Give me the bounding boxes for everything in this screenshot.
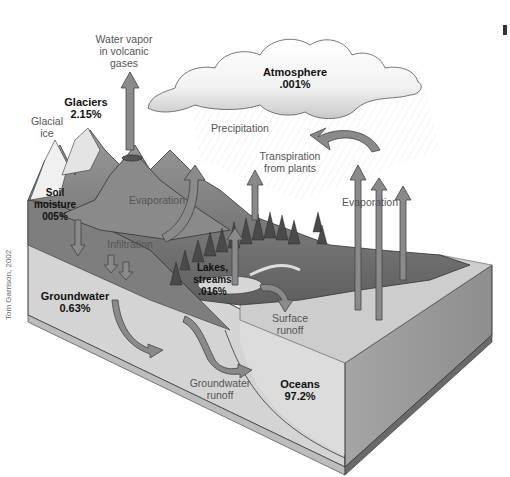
- groundwater-runoff-label: Groundwater runoff: [180, 377, 260, 401]
- volcanic-vapor-arrow: [121, 72, 139, 150]
- groundwater-runoff-line1: Groundwater: [180, 377, 260, 389]
- atmosphere-name: Atmosphere: [240, 66, 350, 78]
- volcanic-vapor-label: Water vapor in volcanic gases: [84, 33, 164, 69]
- lakes-streams-line2: streams: [185, 274, 240, 286]
- glaciers-name: Glaciers: [56, 96, 116, 108]
- groundwater-label: Groundwater 0.63%: [25, 290, 125, 314]
- groundwater-runoff-line2: runoff: [180, 389, 260, 401]
- volcanic-vapor-line1: Water vapor: [84, 33, 164, 45]
- groundwater-percent: 0.63%: [25, 302, 125, 314]
- cropped-adjacent-text-bar: [503, 25, 507, 35]
- volcanic-vapor-line2: in volcanic: [84, 45, 164, 57]
- lakes-streams-percent: .016%: [185, 286, 240, 298]
- volcanic-vapor-line3: gases: [84, 57, 164, 69]
- soil-moisture-line2: moisture: [30, 199, 80, 211]
- oceans-percent: 97.2%: [270, 390, 330, 402]
- soil-moisture-line1: Soil: [30, 187, 80, 199]
- ocean-evaporation-label: Evaporation: [330, 196, 410, 208]
- surface-runoff-line2: runoff: [265, 324, 315, 336]
- surface-runoff-label: Surface runoff: [265, 312, 315, 336]
- transpiration-line2: from plants: [245, 162, 335, 174]
- lakes-streams-label: Lakes, streams .016%: [185, 262, 240, 298]
- groundwater-name: Groundwater: [25, 290, 125, 302]
- water-cycle-diagram: Water vapor in volcanic gases Atmosphere…: [0, 0, 510, 477]
- image-credit: Tom Garrison, 2002: [4, 250, 13, 320]
- soil-moisture-label: Soil moisture 005%: [30, 187, 80, 223]
- lakes-streams-line1: Lakes,: [185, 262, 240, 274]
- oceans-label: Oceans 97.2%: [270, 378, 330, 402]
- atmosphere-percent: .001%: [240, 78, 350, 90]
- soil-moisture-percent: 005%: [30, 211, 80, 223]
- glacial-ice-label: Glacial ice: [22, 115, 72, 139]
- transpiration-line1: Transpiration: [245, 150, 335, 162]
- infiltration-label: Infiltration: [100, 238, 160, 250]
- surface-runoff-line1: Surface: [265, 312, 315, 324]
- land-evaporation-label: Evaporation: [122, 194, 192, 206]
- transpiration-label: Transpiration from plants: [245, 150, 335, 174]
- glacial-ice-line2: ice: [22, 127, 72, 139]
- precipitation-label: Precipitation: [200, 122, 280, 134]
- oceans-name: Oceans: [270, 378, 330, 390]
- glacial-ice-line1: Glacial: [22, 115, 72, 127]
- atmosphere-label: Atmosphere .001%: [240, 66, 350, 90]
